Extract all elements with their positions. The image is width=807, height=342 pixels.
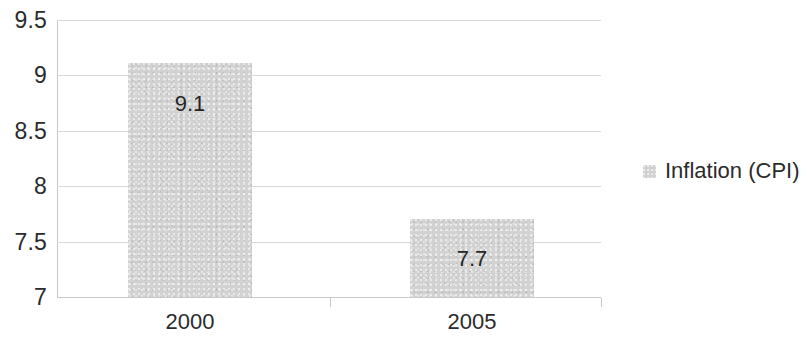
y-axis: 9.5 9 8.5 8 7.5 7 (0, 0, 47, 342)
chart-legend[interactable]: Inflation (CPI) (643, 160, 800, 182)
x-axis-tick (330, 298, 331, 307)
bar-2005[interactable]: 7.7 (410, 219, 534, 297)
x-axis-baseline (57, 297, 601, 298)
y-tick-label: 7 (0, 286, 47, 309)
legend-swatch-icon (643, 165, 656, 178)
y-tick-label: 7.5 (0, 231, 47, 254)
x-category-label-2000: 2000 (124, 311, 256, 333)
bar-chart: 9.5 9 8.5 8 7.5 7 9.1 7.7 2000 2005 Infl… (0, 0, 807, 342)
y-tick-label: 8.5 (0, 120, 47, 143)
bar-value-label: 7.7 (410, 248, 534, 270)
bar-2000[interactable]: 9.1 (128, 63, 252, 297)
x-axis-tick (601, 298, 602, 307)
plot-area: 9.1 7.7 (57, 20, 601, 297)
y-tick-label: 9.5 (0, 9, 47, 32)
y-tick-label: 8 (0, 175, 47, 198)
gridline (57, 20, 601, 21)
bar-value-label: 9.1 (128, 93, 252, 115)
y-tick-label: 9 (0, 64, 47, 87)
legend-label: Inflation (CPI) (665, 160, 800, 182)
x-category-label-2005: 2005 (406, 311, 538, 333)
